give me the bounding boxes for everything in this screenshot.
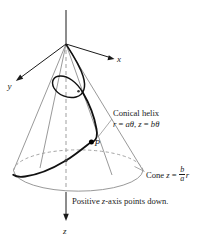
helix-eq-equals-1: = bbox=[116, 119, 125, 129]
positive-z-caption: Positive z-axis points down. bbox=[72, 196, 203, 206]
z-axis-label: z bbox=[62, 226, 67, 236]
coordinate-axes bbox=[16, 10, 115, 221]
x-axis-arrowhead bbox=[108, 55, 115, 60]
cone-base-ellipse bbox=[14, 150, 144, 191]
z-axis-arrowhead bbox=[63, 214, 69, 221]
point-p-dot bbox=[89, 140, 94, 145]
cone-eq-r: r bbox=[186, 170, 189, 180]
point-p-label: P bbox=[94, 138, 101, 148]
helix-right-descent bbox=[83, 92, 97, 142]
helix-inner-point-dot bbox=[77, 90, 80, 93]
y-axis-label: y bbox=[7, 81, 12, 91]
cone-word-label: Cone bbox=[146, 170, 166, 180]
conical-helix-figure: x y z P Conical helix r = aθ, z = bθ Con… bbox=[0, 0, 203, 238]
x-axis-label: x bbox=[116, 54, 121, 64]
cone-eq-equals: = bbox=[170, 170, 179, 180]
helix-upper-loop bbox=[53, 45, 85, 98]
leader-line-helix bbox=[98, 119, 112, 137]
cone-eq-fraction: ba bbox=[179, 166, 185, 183]
conical-helix-equation: r = aθ, z = bθ bbox=[113, 119, 159, 130]
y-axis-arrowhead bbox=[16, 75, 23, 81]
helix-lower-sweep bbox=[13, 143, 90, 177]
helix-base-point-dot bbox=[65, 159, 68, 162]
cone-equation-callout: Cone z = bar bbox=[146, 166, 189, 183]
caption-part-3: -axis points down. bbox=[105, 196, 168, 206]
conical-helix-callout: Conical helix r = aθ, z = bθ bbox=[113, 108, 159, 130]
helix-eq-theta-2: θ bbox=[155, 119, 159, 129]
cone-base-front-arc bbox=[14, 171, 144, 192]
helix-eq-equals-2: = bbox=[142, 119, 151, 129]
cone-edge-inner-left bbox=[40, 44, 66, 168]
conical-helix-curve bbox=[13, 45, 97, 177]
caption-part-1: Positive bbox=[72, 196, 102, 206]
conical-helix-title: Conical helix bbox=[113, 108, 159, 119]
cone-eq-denominator: a bbox=[179, 175, 185, 183]
